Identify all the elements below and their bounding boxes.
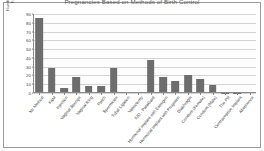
bar-slot	[231, 14, 243, 93]
bar-slot	[206, 14, 218, 93]
bar-slot	[120, 14, 132, 93]
gridline	[33, 93, 256, 94]
x-tick-label-text: FAM	[48, 95, 57, 105]
x-tick-label-text: Patch	[96, 95, 107, 106]
y-tick-label: 50	[26, 47, 31, 52]
chart-figure: Pregnancies Based on Methods of Birth Co…	[0, 0, 264, 151]
y-tick-label: 10	[26, 82, 31, 87]
bar-slot	[182, 14, 194, 93]
bar-slot	[194, 14, 206, 93]
bar-slot	[169, 14, 181, 93]
bar[interactable]	[48, 68, 56, 93]
bar-slot	[95, 14, 107, 93]
bar-slot	[45, 14, 57, 93]
bar-slot	[70, 14, 82, 93]
y-tick-label: 90	[26, 12, 31, 17]
y-axis-title-line2: Females in Typical Use	[10, 0, 15, 23]
y-tick-label: 80	[26, 20, 31, 25]
bar[interactable]	[110, 68, 118, 93]
bar[interactable]	[196, 79, 204, 93]
y-tick-label: 20	[26, 73, 31, 78]
bar[interactable]	[147, 60, 155, 93]
bar-slot	[33, 14, 45, 93]
chart-title: Pregnancies Based on Methods of Birth Co…	[0, 0, 264, 5]
bar-slot	[145, 14, 157, 93]
bar[interactable]	[35, 18, 43, 93]
bar[interactable]	[73, 77, 81, 93]
plot-area: 0102030405060708090	[33, 14, 256, 93]
y-tick-label: 60	[26, 38, 31, 43]
bar[interactable]	[184, 75, 192, 93]
x-axis-line	[33, 92, 256, 93]
bar[interactable]	[159, 77, 167, 93]
y-axis-line	[33, 14, 34, 93]
y-tick-label: 0	[29, 91, 31, 96]
y-tick-label: 70	[26, 29, 31, 34]
bar-slot	[58, 14, 70, 93]
bar-slot	[244, 14, 256, 93]
y-tick-label: 30	[26, 64, 31, 69]
y-axis-title: Number of Pregnancies per 100 Females in…	[5, 0, 17, 23]
x-axis-labels: No MethodFAMInjectionVaginal SpongeVagin…	[33, 95, 256, 149]
y-tick-label: 40	[26, 55, 31, 60]
bar-slot	[219, 14, 231, 93]
bar-slot	[107, 14, 119, 93]
bar-series	[33, 14, 256, 93]
bar-slot	[157, 14, 169, 93]
bar-slot	[83, 14, 95, 93]
bar-slot	[132, 14, 144, 93]
